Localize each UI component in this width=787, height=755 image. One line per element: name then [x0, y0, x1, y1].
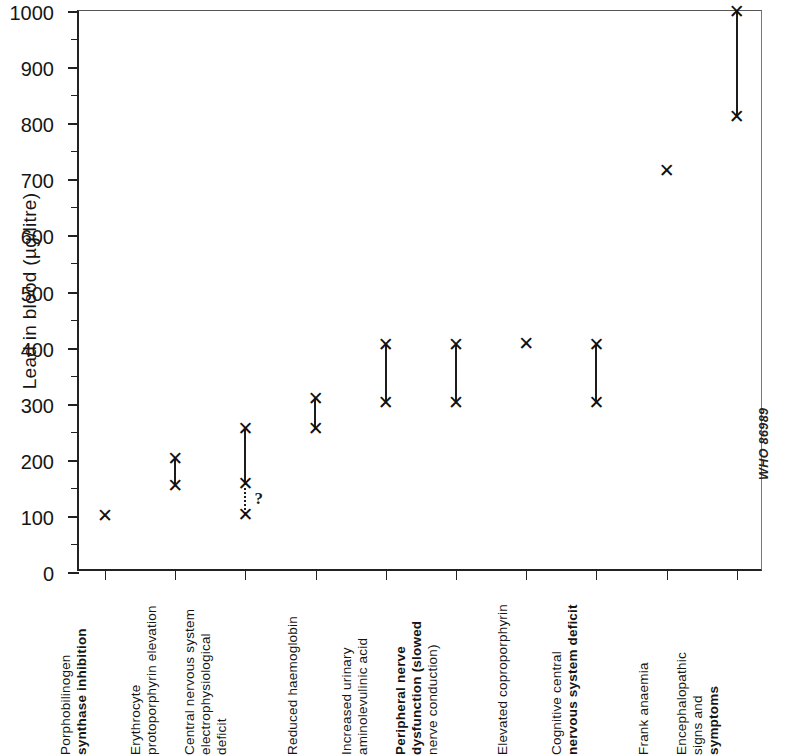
- y-tick-major: 0: [68, 572, 79, 574]
- x-category-label-line: dysfunction (slowed: [409, 583, 425, 755]
- data-marker: ✕: [448, 336, 465, 353]
- x-tick: [175, 569, 176, 580]
- y-tick-minor: [71, 320, 79, 321]
- x-category-label-line: Encephalopathic: [674, 583, 690, 755]
- who-credit-label: WHO 86989: [757, 360, 771, 480]
- x-tick: [316, 569, 317, 580]
- data-marker: ✕: [167, 477, 184, 494]
- y-tick-label: 100: [21, 506, 54, 529]
- data-marker: ✕: [237, 475, 254, 492]
- y-tick-label: 300: [21, 394, 54, 417]
- y-tick-label: 600: [21, 226, 54, 249]
- x-axis-category-labels: Porphobilinogensynthase inhibitionErythr…: [77, 583, 762, 755]
- x-tick: [526, 569, 527, 580]
- y-tick-major: 700: [68, 179, 79, 181]
- x-category-label-line: Peripheral nerve: [393, 583, 409, 755]
- y-tick-minor: [71, 432, 79, 433]
- data-marker: ✕: [448, 394, 465, 411]
- x-category-label: Encephalopathicsigns and symptoms: [649, 583, 787, 755]
- y-tick-major: 400: [68, 348, 79, 350]
- data-marker: ✕: [237, 506, 254, 523]
- y-tick-major: 500: [68, 292, 79, 294]
- y-tick-label: 900: [21, 58, 54, 81]
- range-line: [736, 11, 738, 116]
- x-category-label-line: Erythrocyte: [128, 583, 144, 755]
- y-tick-minor: [71, 263, 79, 264]
- x-category-label-text: Encephalopathicsigns and symptoms: [674, 583, 722, 755]
- x-tick: [737, 569, 738, 580]
- y-tick-minor: [71, 95, 79, 96]
- data-marker: ✕: [307, 390, 324, 407]
- x-category-label-text: Central nervous systemelectrophysiologic…: [182, 583, 230, 755]
- y-tick-major: 800: [68, 123, 79, 125]
- data-marker: ✕: [728, 3, 745, 20]
- data-marker: ✕: [377, 336, 394, 353]
- y-tick-label: 200: [21, 450, 54, 473]
- x-tick: [245, 569, 246, 580]
- x-tick: [105, 569, 106, 580]
- data-marker: ✕: [658, 162, 675, 179]
- y-tick-label: 400: [21, 338, 54, 361]
- y-tick-minor: [71, 207, 79, 208]
- y-tick-minor: [71, 39, 79, 40]
- data-marker: ✕: [518, 335, 535, 352]
- lead-in-blood-chart: Lead in blood (µg/litre) 010020030040050…: [0, 0, 787, 755]
- x-category-label-text: Erythrocyteprotoporphyrin elevation: [128, 583, 160, 755]
- data-marker: ✕: [237, 420, 254, 437]
- x-category-label-line: Porphobilinogen: [58, 583, 74, 755]
- x-category-label-line: symptoms: [706, 583, 722, 755]
- y-tick-major: 100: [68, 516, 79, 518]
- x-category-label-text: Increased urinaryaminolevulinic acid: [339, 583, 371, 755]
- uncertainty-question-mark: ?: [254, 489, 263, 509]
- data-marker: ✕: [588, 394, 605, 411]
- x-category-label-text: Cognitive centralnervous system deficit: [549, 583, 581, 755]
- plot-area: 01002003004005006007008009001000 ✕✕✕?✕✕✕…: [77, 10, 762, 571]
- y-tick-minor: [71, 488, 79, 489]
- data-marker: ✕: [377, 394, 394, 411]
- data-marker: ✕: [728, 108, 745, 125]
- y-tick-label: 1000: [10, 2, 55, 25]
- data-marker: ✕: [307, 420, 324, 437]
- data-marker: ✕: [97, 507, 114, 524]
- data-marker: ✕: [167, 450, 184, 467]
- x-category-label-text: Porphobilinogensynthase inhibition: [58, 583, 90, 755]
- y-tick-label: 700: [21, 170, 54, 193]
- x-category-label-line: Central nervous system: [182, 583, 198, 755]
- x-category-label-line: signs and: [690, 583, 706, 755]
- y-tick-minor: [71, 376, 79, 377]
- x-category-label-text: Peripheral nervedysfunction (slowednerve…: [393, 583, 441, 755]
- y-tick-major: 600: [68, 235, 79, 237]
- x-category-label-line: electrophysiological: [198, 583, 214, 755]
- y-tick-major: 1000: [68, 11, 79, 13]
- y-tick-minor: [71, 544, 79, 545]
- x-tick: [596, 569, 597, 580]
- x-tick: [456, 569, 457, 580]
- y-tick-minor: [71, 151, 79, 152]
- y-tick-label: 800: [21, 114, 54, 137]
- y-tick-major: 300: [68, 404, 79, 406]
- y-tick-label: 500: [21, 282, 54, 305]
- x-tick: [667, 569, 668, 580]
- x-category-label-line: Cognitive central: [549, 583, 565, 755]
- data-marker: ✕: [588, 336, 605, 353]
- x-tick: [386, 569, 387, 580]
- y-tick-major: 200: [68, 460, 79, 462]
- y-tick-major: 900: [68, 67, 79, 69]
- x-category-label-line: Increased urinary: [339, 583, 355, 755]
